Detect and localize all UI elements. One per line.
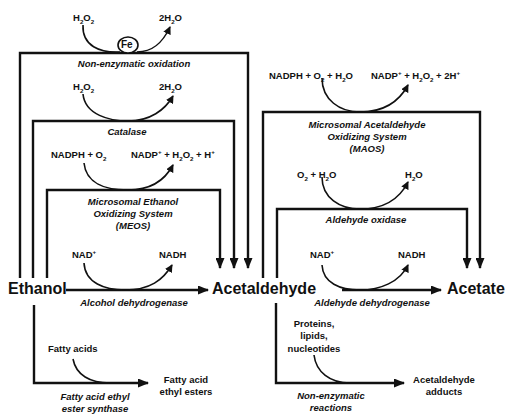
nonenzymatic-reactions-label: Non-enzymatic reactions	[297, 390, 365, 414]
maos-line-2: Oxidizing System	[309, 131, 426, 143]
adducts-curve	[314, 355, 350, 383]
aox-substrate: O2 + H2O	[297, 170, 336, 180]
adduct-input-line-3: nucleotides	[288, 343, 341, 355]
fe-label: Fe	[121, 40, 133, 50]
h2o2-label-top: H2O2	[73, 13, 94, 23]
catalase-curve	[83, 94, 173, 121]
maos-curve	[322, 78, 408, 112]
nonenzymatic-path	[20, 53, 248, 278]
metabolism-diagram: H2O2 2H2O Fe Non-enzymatic oxidation H2O…	[0, 0, 505, 417]
adduct-inputs-label: Proteins, lipids, nucleotides	[288, 318, 341, 355]
meos-line-3: (MEOS)	[88, 220, 178, 232]
aldh-curve	[322, 265, 408, 290]
fatty-acids-curve	[73, 359, 110, 383]
faee-product-line-1: Fatty acid	[160, 374, 213, 386]
maos-line-3: (MAOS)	[309, 143, 426, 155]
2h2o-label-catalase: 2H2O	[159, 82, 182, 92]
nonenzymatic-reactions-line-1: Non-enzymatic	[297, 390, 365, 402]
meos-curve	[84, 163, 173, 190]
catalase-label: Catalase	[107, 126, 146, 138]
acetate-label: Acetate	[447, 281, 505, 297]
ethanol-label: Ethanol	[8, 281, 67, 297]
adh-curve	[84, 263, 172, 290]
meos-line-1: Microsomal Ethanol	[88, 196, 178, 208]
faee-synthase-label: Fatty acid ethyl ester synthase	[60, 391, 129, 415]
2h2o-label-top: 2H2O	[159, 13, 182, 23]
meos-label: Microsomal Ethanol Oxidizing System (MEO…	[88, 196, 178, 232]
nonenzymatic-reactions-line-2: reactions	[297, 402, 365, 414]
maos-line-1: Microsomal Acetaldehyde	[309, 119, 426, 131]
aldh-nadh-label: NADH	[398, 250, 425, 260]
faee-product-line-2: ethyl esters	[160, 386, 213, 398]
adduct-input-line-2: lipids,	[288, 330, 341, 342]
aldh-nad-label: NAD+	[310, 250, 334, 260]
fe-curve	[137, 27, 170, 52]
alcohol-dehydrogenase-label: Alcohol dehydrogenase	[80, 297, 188, 309]
maos-label: Microsomal Acetaldehyde Oxidizing System…	[309, 119, 426, 155]
faee-synthase-line-2: ester synthase	[60, 403, 129, 415]
acetaldehyde-label: Acetaldehyde	[212, 281, 316, 297]
adduct-input-line-1: Proteins,	[288, 318, 341, 330]
adducts-product-line-1: Acetaldehyde	[413, 374, 475, 386]
meos-line-2: Oxidizing System	[88, 208, 178, 220]
faee-synthase-line-1: Fatty acid ethyl	[60, 391, 129, 403]
adducts-product-label: Acetaldehyde adducts	[413, 374, 475, 399]
aldehyde-oxidase-curve	[322, 177, 408, 209]
meos-product: NADP+ + H2O2 + H+	[131, 150, 215, 160]
aldehyde-dehydrogenase-label: Aldehyde dehydrogenase	[314, 297, 430, 309]
adducts-product-line-2: adducts	[413, 386, 475, 398]
pathway-lines	[0, 0, 505, 417]
fatty-acids-label: Fatty acids	[48, 344, 98, 354]
meos-substrate: NADPH + O2	[51, 150, 106, 160]
aldehyde-oxidase-label: Aldehyde oxidase	[326, 214, 407, 226]
adh-nad-label: NAD+	[72, 250, 96, 260]
maos-product: NADP+ + H2O2 + 2H+	[371, 71, 460, 81]
h2o2-label-catalase: H2O2	[73, 82, 94, 92]
faee-product-label: Fatty acid ethyl esters	[160, 374, 213, 399]
maos-substrate: NADPH + O2 + H2O	[269, 71, 353, 81]
aox-product: H2O	[405, 170, 423, 180]
nonenzymatic-oxidation-label: Non-enzymatic oxidation	[78, 58, 190, 70]
adh-nadh-label: NADH	[159, 250, 186, 260]
